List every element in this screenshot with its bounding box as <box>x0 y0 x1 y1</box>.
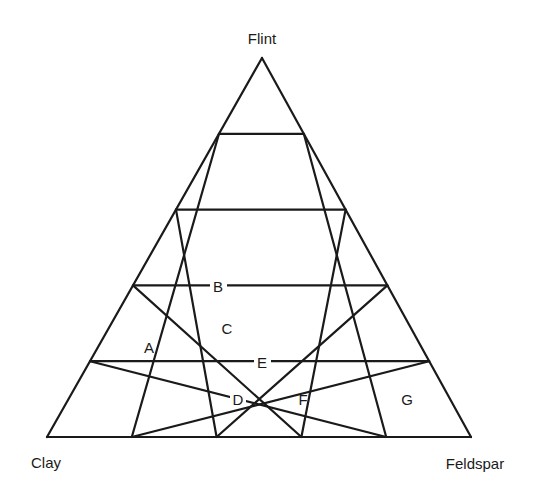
vertex-label-clay: Clay <box>31 454 62 471</box>
vertex-label-flint: Flint <box>248 30 277 47</box>
point-label-a: A <box>144 339 154 356</box>
ternary-diagram: Flint Clay Feldspar A B C D E F G <box>0 0 553 500</box>
point-label-g: G <box>401 391 413 408</box>
point-label-c: C <box>222 320 233 337</box>
point-label-e: E <box>257 354 267 371</box>
grid-line <box>132 361 429 437</box>
grid-line <box>262 58 471 437</box>
vertex-label-feldspar: Feldspar <box>446 455 504 472</box>
grid-line <box>176 210 217 437</box>
grid-line <box>47 58 262 437</box>
point-label-d: D <box>233 391 244 408</box>
triangle-grid <box>47 58 471 437</box>
point-label-b: B <box>213 278 223 295</box>
grid-line <box>301 210 345 437</box>
point-label-f: F <box>298 391 307 408</box>
